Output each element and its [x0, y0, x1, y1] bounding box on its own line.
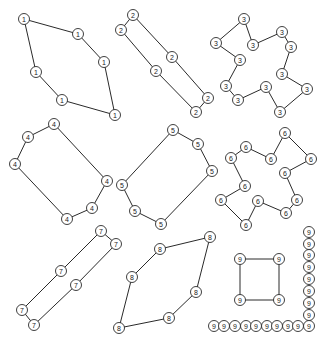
- cluster-6-node: 6: [280, 168, 291, 179]
- node-label: 1: [102, 59, 106, 66]
- node-label: 8: [208, 234, 212, 241]
- node-label: 9: [307, 300, 311, 307]
- isolated-node-9: 9: [283, 321, 294, 332]
- node-label: 3: [236, 97, 240, 104]
- node-label: 3: [305, 86, 309, 93]
- node-label: 5: [210, 168, 214, 175]
- cluster-5-node: 5: [168, 125, 179, 136]
- cluster-6-node: 6: [266, 154, 277, 165]
- cluster-2-node: 2: [128, 10, 139, 21]
- cluster-6-node: 6: [292, 195, 303, 206]
- node-label: 6: [283, 170, 287, 177]
- node-label: 4: [13, 161, 17, 168]
- cluster-9-node: 9: [274, 254, 285, 265]
- node-label: 3: [264, 84, 268, 91]
- cluster-3-node: 3: [233, 95, 244, 106]
- node-label: 9: [265, 323, 269, 330]
- cluster-4-node: 4: [10, 159, 21, 170]
- cluster-3-node: 3: [277, 27, 288, 38]
- node-label: 9: [307, 323, 311, 330]
- cluster-8-node: 8: [127, 272, 138, 283]
- node-label: 9: [296, 323, 300, 330]
- node-label: 9: [244, 323, 248, 330]
- node-label: 7: [20, 307, 24, 314]
- node-label: 9: [307, 229, 311, 236]
- cluster-6-node: 6: [281, 208, 292, 219]
- cluster-8-node: 8: [155, 244, 166, 255]
- isolated-node-9: 9: [304, 286, 315, 297]
- node-label: 6: [219, 197, 223, 204]
- cluster-9-outline: [240, 259, 279, 300]
- cluster-6-outline: [221, 133, 311, 225]
- isolated-node-9: 9: [293, 321, 304, 332]
- cluster-3-node: 3: [248, 40, 259, 51]
- cluster-6-node: 6: [240, 181, 251, 192]
- cluster-1-node: 1: [110, 110, 121, 121]
- node-label: 7: [99, 228, 103, 235]
- cluster-4-node: 4: [62, 214, 73, 225]
- cluster-4-node: 4: [102, 176, 113, 187]
- node-label: 1: [60, 97, 64, 104]
- node-label: 4: [26, 134, 30, 141]
- diagram-canvas: 1111112222223333333333334444445555556666…: [0, 0, 327, 347]
- cluster-6-node: 6: [241, 142, 252, 153]
- node-label: 5: [196, 141, 200, 148]
- node-label: 6: [283, 130, 287, 137]
- node-label: 1: [22, 16, 26, 23]
- cluster-3-node: 3: [211, 38, 222, 49]
- node-label: 2: [206, 95, 210, 102]
- node-label: 8: [167, 315, 171, 322]
- cluster-2-node: 2: [116, 25, 127, 36]
- node-label: 3: [278, 109, 282, 116]
- node-label: 3: [238, 57, 242, 64]
- isolated-node-9: 9: [272, 321, 283, 332]
- cluster-3-node: 3: [302, 84, 313, 95]
- cluster-3-node: 3: [277, 69, 288, 80]
- cluster-6-node: 6: [216, 195, 227, 206]
- node-label: 2: [154, 68, 158, 75]
- node-label: 1: [34, 69, 38, 76]
- cluster-3-node: 3: [235, 55, 246, 66]
- node-label: 6: [309, 156, 313, 163]
- cluster-7-node: 7: [96, 226, 107, 237]
- node-label: 9: [238, 256, 242, 263]
- cluster-6-node: 6: [280, 128, 291, 139]
- isolated-node-9: 9: [209, 321, 220, 332]
- node-label: 4: [105, 178, 109, 185]
- node-label: 6: [229, 155, 233, 162]
- isolated-node-9: 9: [304, 262, 315, 273]
- cluster-2-node: 2: [151, 66, 162, 77]
- cluster-1-node: 1: [99, 57, 110, 68]
- isolated-node-9: 9: [304, 239, 315, 250]
- cluster-4-node: 4: [49, 119, 60, 130]
- node-label: 2: [170, 54, 174, 61]
- cluster-9-node: 9: [235, 295, 246, 306]
- node-label: 6: [284, 210, 288, 217]
- node-label: 7: [59, 268, 63, 275]
- cluster-2-node: 2: [191, 107, 202, 118]
- node-label: 9: [307, 288, 311, 295]
- cluster-8-node: 8: [164, 313, 175, 324]
- node-label: 6: [256, 198, 260, 205]
- node-label: 9: [307, 276, 311, 283]
- node-label: 3: [214, 40, 218, 47]
- cluster-1-node: 1: [19, 14, 30, 25]
- node-label: 6: [269, 156, 273, 163]
- node-label: 9: [212, 323, 216, 330]
- node-label: 9: [307, 312, 311, 319]
- cluster-5-node: 5: [193, 139, 204, 150]
- cluster-2-node: 2: [203, 93, 214, 104]
- cluster-6-node: 6: [226, 153, 237, 164]
- node-label: 9: [238, 297, 242, 304]
- node-label: 9: [222, 323, 226, 330]
- cluster-7-node: 7: [17, 305, 28, 316]
- node-label: 2: [131, 12, 135, 19]
- cluster-4-node: 4: [87, 203, 98, 214]
- node-label: 4: [65, 216, 69, 223]
- node-label: 9: [307, 264, 311, 271]
- cluster-9-node: 9: [274, 295, 285, 306]
- node-label: 2: [119, 27, 123, 34]
- cluster-6-node: 6: [241, 220, 252, 231]
- node-label: 1: [76, 31, 80, 38]
- isolated-node-9: 9: [230, 321, 241, 332]
